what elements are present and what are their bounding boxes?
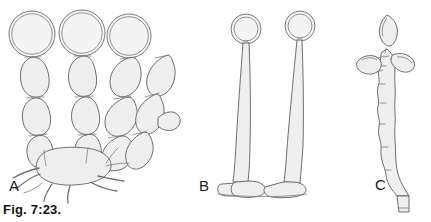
- panel-label-b: B: [199, 177, 209, 194]
- panel-b-head-1: [231, 14, 261, 44]
- panel-c-spore-left: [357, 56, 384, 75]
- panel-a-drawing: [9, 10, 180, 203]
- panel-a-spore-3: [107, 14, 151, 58]
- figure-plate: .ln{fill:#f4f4f4;stroke:#6b6b6b;stroke-w…: [0, 0, 431, 222]
- figure-caption: Fig. 7:23.: [3, 202, 61, 217]
- panel-c-stalk-base: [397, 196, 409, 212]
- panel-a-basal-cell: [36, 147, 111, 185]
- panel-c-spore-apical: [379, 15, 397, 46]
- panel-a-spore-2: [59, 10, 105, 56]
- panel-b-base: [218, 181, 307, 198]
- panel-label-c: C: [375, 176, 386, 193]
- panel-a-spore-1: [9, 11, 55, 57]
- figure-illustration: .ln{fill:#f4f4f4;stroke:#6b6b6b;stroke-w…: [0, 0, 431, 222]
- panel-b-drawing: [218, 11, 315, 198]
- panel-b-stalk-2: [284, 40, 303, 183]
- panel-b-stalk-1: [233, 43, 250, 182]
- panel-b-head-2: [285, 11, 315, 41]
- panel-label-a: A: [9, 177, 19, 194]
